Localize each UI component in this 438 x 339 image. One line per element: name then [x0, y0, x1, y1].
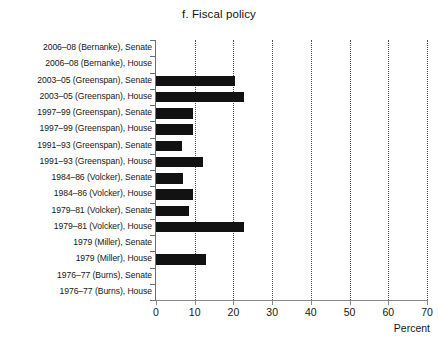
y-axis-label: 1979–81 (Volcker), Senate	[4, 205, 152, 215]
y-axis-label: 1984–86 (Volcker), Senate	[4, 172, 152, 182]
y-axis-label: 1991–93 (Greenspan), Senate	[4, 140, 152, 150]
x-tick	[311, 300, 312, 305]
x-tick	[350, 300, 351, 305]
x-axis-label: 60	[368, 306, 408, 318]
y-axis-label: 2003–05 (Greenspan), House	[4, 91, 152, 101]
bar	[156, 189, 193, 200]
x-axis-line	[155, 300, 428, 301]
bar-row	[156, 235, 427, 251]
bar	[156, 141, 182, 152]
x-tick	[156, 300, 157, 305]
x-tick	[233, 300, 234, 305]
y-axis-label: 2003–05 (Greenspan), Senate	[4, 75, 152, 85]
bar	[156, 157, 203, 168]
y-axis-label: 1976–77 (Burns), Senate	[4, 270, 152, 280]
y-axis-label: 1979 (Miller), Senate	[4, 237, 152, 247]
bar-row	[156, 203, 427, 219]
bar	[156, 108, 193, 119]
bar-row	[156, 284, 427, 300]
y-axis-label: 1984–86 (Volcker), House	[4, 188, 152, 198]
bar-row	[156, 186, 427, 202]
y-axis-label: 1979–81 (Volcker), House	[4, 221, 152, 231]
y-axis-label: 1997–99 (Greenspan), Senate	[4, 107, 152, 117]
bar-row	[156, 268, 427, 284]
bar-row	[156, 154, 427, 170]
y-axis-label: 2006–08 (Bernanke), House	[4, 58, 152, 68]
bar-row	[156, 89, 427, 105]
y-axis-label: 1979 (Miller), House	[4, 253, 152, 263]
bar-row	[156, 138, 427, 154]
y-axis-label: 1997–99 (Greenspan), House	[4, 123, 152, 133]
bar-row	[156, 105, 427, 121]
x-axis-label: 10	[175, 306, 215, 318]
bar-row	[156, 219, 427, 235]
x-tick	[272, 300, 273, 305]
bar	[156, 76, 235, 87]
chart-title: f. Fiscal policy	[0, 8, 438, 20]
bar	[156, 254, 206, 265]
bar	[156, 173, 183, 184]
plot-area	[156, 40, 427, 300]
bar-row	[156, 40, 427, 56]
y-axis-label: 2006–08 (Bernanke), Senate	[4, 42, 152, 52]
y-axis-tick-labels: 2006–08 (Bernanke), Senate2006–08 (Berna…	[0, 40, 152, 300]
x-axis-label: 30	[252, 306, 292, 318]
x-tick	[427, 300, 428, 305]
bar-row	[156, 251, 427, 267]
bar-row	[156, 56, 427, 72]
x-axis-title: Percent	[0, 322, 430, 334]
bar	[156, 206, 189, 217]
x-axis-label: 50	[330, 306, 370, 318]
y-axis-label: 1976–77 (Burns), House	[4, 286, 152, 296]
x-axis-label: 70	[407, 306, 438, 318]
x-tick	[195, 300, 196, 305]
x-axis-label: 0	[136, 306, 176, 318]
x-axis-label: 20	[213, 306, 253, 318]
x-tick	[388, 300, 389, 305]
gridline-70	[427, 40, 428, 300]
fiscal-policy-bar-chart: f. Fiscal policy 2006–08 (Bernanke), Sen…	[0, 0, 438, 339]
bar-row	[156, 170, 427, 186]
y-axis-label: 1991–93 (Greenspan), House	[4, 156, 152, 166]
x-axis-label: 40	[291, 306, 331, 318]
bar-row	[156, 121, 427, 137]
bar	[156, 222, 244, 233]
bar	[156, 92, 244, 103]
bar-row	[156, 73, 427, 89]
bar	[156, 124, 193, 135]
